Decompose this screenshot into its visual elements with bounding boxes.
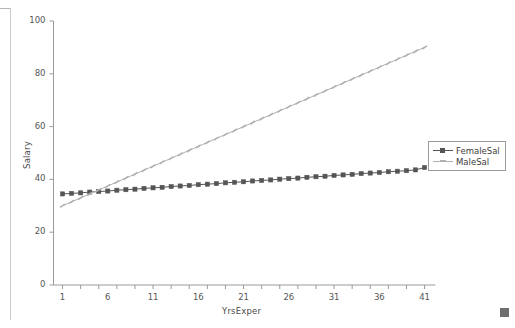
x-tick-label: 1 [50,292,76,302]
axes [50,21,436,289]
x-tick-label: 16 [185,292,211,302]
y-tick-label: 0 [20,279,46,289]
x-tick-label: 36 [366,292,392,302]
resize-handle-icon[interactable] [500,308,509,317]
y-tick-label: 100 [20,15,46,25]
x-tick-label: 31 [321,292,347,302]
x-tick-label: 21 [231,292,257,302]
y-tick-label: 80 [20,68,46,78]
x-tick-label: 6 [95,292,121,302]
x-tick-label: 26 [276,292,302,302]
legend-label: FemaleSal [454,146,500,156]
legend-label: MaleSal [454,157,489,167]
legend-item[interactable]: FemaleSal [432,145,500,156]
chart-window: 020406080100 1611162126313641 Salary Yrs… [0,0,515,328]
chart-legend[interactable]: FemaleSalMaleSal [428,141,506,171]
legend-marker-icon [432,156,454,167]
y-axis-title: Salary [22,125,32,185]
data-series [60,46,427,208]
x-axis-title: YrsExper [222,306,261,316]
plot-area: 020406080100 1611162126313641 Salary Yrs… [0,0,515,328]
x-tick-label: 41 [412,292,438,302]
y-tick-label: 20 [20,226,46,236]
x-tick-label: 11 [140,292,166,302]
legend-item[interactable]: MaleSal [432,156,500,167]
legend-marker-icon [432,145,454,156]
